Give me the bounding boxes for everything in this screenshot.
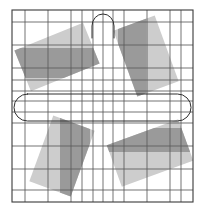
geometric-figure	[0, 0, 205, 212]
figure-container	[0, 0, 205, 212]
